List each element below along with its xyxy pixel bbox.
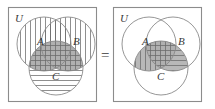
right-label-a: A <box>141 35 149 47</box>
venn-figure-svg: U A B C = <box>0 0 215 109</box>
right-label-b: B <box>178 35 185 47</box>
equals-sign: = <box>101 47 109 63</box>
venn-identity-figure: U A B C = <box>0 0 215 109</box>
left-label-a: A <box>36 35 44 47</box>
right-universe-label: U <box>120 12 129 24</box>
right-label-c: C <box>157 70 165 82</box>
left-label-b: B <box>73 35 80 47</box>
left-diagram: U A B C <box>8 7 98 103</box>
left-label-c: C <box>52 70 60 82</box>
right-diagram: U A B C <box>113 7 203 103</box>
left-universe-label: U <box>15 12 24 24</box>
